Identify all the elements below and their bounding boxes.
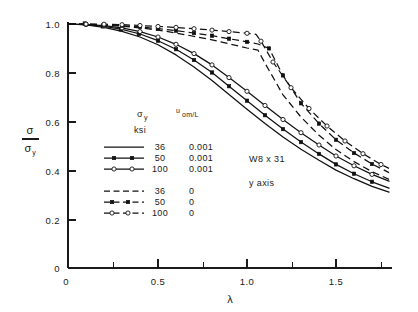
- y-tick-label-0.6: 0.6: [46, 117, 60, 128]
- x-ticks-group: [113, 259, 381, 268]
- legend-label-u-4: 0: [189, 186, 194, 196]
- legend-header-sigma-subscript: y: [144, 114, 148, 122]
- legend-label-sigma-y-3: 100: [152, 164, 168, 174]
- y-axis-title-denominator-subscript: y: [32, 149, 36, 157]
- legend-marker-open-circle-4: [126, 211, 130, 215]
- annotations-group: W8 x 31 y axis: [249, 154, 285, 188]
- legend-row-36-0.001: 36 0.001: [104, 142, 213, 152]
- y-tick-label-0: 0: [54, 263, 60, 274]
- series-markers-50-0.001: [83, 22, 374, 184]
- y-tick-label-0.8: 0.8: [46, 68, 60, 79]
- y-tick-labels: 1.0 0.8 0.6 0.4 0.2 0: [46, 19, 60, 275]
- legend-label-u-5: 0: [189, 197, 194, 207]
- y-tick-label-0.4: 0.4: [46, 166, 60, 177]
- chart-canvas: 1.0 0.8 0.6 0.4 0.2 0 0 0.5 1.0 1.5 σ σ …: [0, 0, 418, 312]
- legend-label-sigma-y-5: 50: [155, 197, 166, 207]
- legend-label-sigma-y-6: 100: [152, 208, 168, 218]
- legend-label-u-6: 0: [189, 208, 194, 218]
- legend-marker-open-circle-3: [110, 211, 114, 215]
- series-line-36-0: [68, 24, 389, 179]
- legend: σ y u om/L ksi 36 0.001 50 0.001: [104, 107, 213, 218]
- legend-header-u: u: [176, 107, 180, 114]
- series-50-0.001: [68, 22, 389, 188]
- legend-marker-open-circle-1: [112, 167, 116, 171]
- legend-header-u-subscript: om/L: [182, 111, 199, 118]
- legend-label-u-1: 0.001: [189, 142, 213, 152]
- axes-group: [68, 22, 392, 268]
- y-tick-label-0.2: 0.2: [46, 215, 60, 226]
- y-axis-title-numerator: σ: [27, 124, 34, 136]
- x-tick-labels: 0 0.5 1.0 1.5: [63, 276, 343, 287]
- y-axis-title-denominator: σ: [25, 142, 32, 154]
- series-line-50-0.001: [68, 24, 389, 188]
- legend-label-sigma-y-4: 36: [155, 186, 166, 196]
- legend-label-u-2: 0.001: [189, 153, 213, 163]
- y-axis-title: σ σ y: [22, 124, 39, 157]
- x-axis-title: λ: [227, 293, 233, 305]
- series-markers-100-0.001: [84, 22, 374, 176]
- x-tick-label-1.5: 1.5: [329, 276, 343, 287]
- legend-row-50-0.001: 50 0.001: [104, 153, 213, 163]
- legend-label-u-3: 0.001: [189, 164, 213, 174]
- legend-row-100-0.001: 100 0.001: [104, 164, 213, 174]
- legend-row-50-0: 50 0: [104, 197, 194, 207]
- legend-row-36-0: 36 0: [104, 186, 194, 196]
- figure-container: 1.0 0.8 0.6 0.4 0.2 0 0 0.5 1.0 1.5 σ σ …: [0, 0, 418, 312]
- annotation-axis-label: y axis: [249, 178, 275, 188]
- legend-label-sigma-y-2: 50: [155, 153, 166, 163]
- series-36-0: [68, 24, 389, 179]
- legend-marker-open-circle-2: [130, 167, 134, 171]
- x-tick-label-0: 0: [63, 276, 69, 287]
- legend-header-units: ksi: [134, 125, 146, 135]
- legend-marker-filled-square-1: [112, 156, 115, 159]
- legend-row-100-0: 100 0: [104, 208, 194, 218]
- legend-marker-filled-square-4: [126, 200, 129, 203]
- x-tick-label-1.0: 1.0: [240, 276, 254, 287]
- legend-header-sigma: σ: [137, 109, 143, 119]
- series-markers-100-0: [84, 22, 383, 167]
- legend-marker-filled-square-2: [130, 156, 133, 159]
- y-ticks-group: [68, 24, 76, 220]
- legend-label-sigma-y-1: 36: [155, 142, 166, 152]
- x-tick-label-0.5: 0.5: [151, 276, 165, 287]
- series-line-50-0: [68, 24, 389, 173]
- annotation-section-label: W8 x 31: [249, 154, 285, 164]
- y-tick-label-1.0: 1.0: [46, 19, 60, 30]
- legend-marker-filled-square-3: [110, 200, 113, 203]
- series-50-0: [68, 23, 389, 173]
